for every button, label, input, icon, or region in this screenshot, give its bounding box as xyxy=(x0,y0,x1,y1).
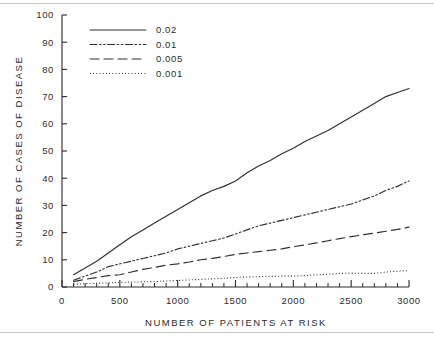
legend-label-0.02: 0.02 xyxy=(156,24,177,35)
y-axis-title: NUMBER OF CASES OF DISEASE xyxy=(13,56,24,247)
data-series-group xyxy=(74,88,409,284)
series-line-0.02 xyxy=(74,88,409,274)
y-axis-tick-label: 100 xyxy=(36,9,54,20)
axis-ticks-group xyxy=(62,15,409,287)
x-axis-tick-label: 2500 xyxy=(339,295,363,306)
y-axis-tick-label: 30 xyxy=(42,200,54,211)
chart-legend: 0.020.010.0050.001 xyxy=(90,24,183,79)
y-axis-tick-label: 70 xyxy=(42,91,54,102)
x-axis-tick-labels: 050010001500200025003000 xyxy=(59,295,421,306)
y-axis-tick-label: 90 xyxy=(42,37,54,48)
legend-label-0.001: 0.001 xyxy=(156,68,183,79)
x-axis-tick-label: 500 xyxy=(111,295,129,306)
x-axis-tick-label: 0 xyxy=(59,295,65,306)
x-axis-title: NUMBER OF PATIENTS AT RISK xyxy=(145,317,327,328)
y-axis-tick-label: 80 xyxy=(42,64,54,75)
y-axis-tick-label: 50 xyxy=(42,145,54,156)
axes-group xyxy=(62,15,409,287)
y-axis-tick-labels: 0102030405060708090100 xyxy=(36,9,54,292)
bottom-divider-rule xyxy=(0,332,434,333)
x-axis-tick-label: 3000 xyxy=(397,295,421,306)
x-axis-tick-label: 2000 xyxy=(282,295,306,306)
line-chart-plot: 0102030405060708090100 05001000150020002… xyxy=(0,0,434,337)
series-line-0.01 xyxy=(74,181,409,280)
y-axis-tick-label: 20 xyxy=(42,227,54,238)
x-axis-tick-label: 1500 xyxy=(224,295,248,306)
series-line-0.001 xyxy=(74,271,409,285)
chart-figure: 0102030405060708090100 05001000150020002… xyxy=(0,0,434,337)
y-axis-tick-label: 10 xyxy=(42,254,54,265)
y-axis-tick-label: 60 xyxy=(42,118,54,129)
x-axis-tick-label: 1000 xyxy=(166,295,190,306)
y-axis-tick-label: 40 xyxy=(42,173,54,184)
legend-label-0.005: 0.005 xyxy=(156,53,183,64)
y-axis-tick-label: 0 xyxy=(48,281,54,292)
legend-label-0.01: 0.01 xyxy=(156,39,177,50)
top-divider-rule xyxy=(0,3,434,4)
